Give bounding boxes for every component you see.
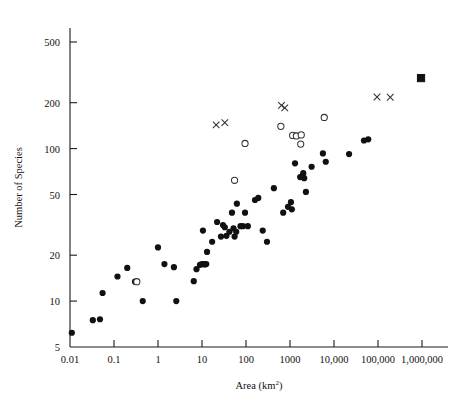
filled-circle-point: [161, 261, 167, 267]
x-axis-title-base: Area (km: [236, 380, 276, 392]
square-point: [417, 74, 424, 81]
x-tick-label-0.01: 0.01: [61, 354, 79, 365]
filled-circle-point: [346, 151, 352, 157]
filled-circle-point: [260, 227, 266, 233]
x-tick-label-0.1: 0.1: [107, 354, 120, 365]
filled-circle-point: [264, 239, 270, 245]
filled-circle-point: [242, 210, 248, 216]
cross-point: [281, 105, 288, 112]
filled-circle-point: [218, 233, 224, 239]
open-circle-point: [298, 132, 304, 138]
open-circle-point: [242, 140, 248, 146]
y-axis-title: Number of Species: [13, 147, 24, 227]
filled-circle-point: [323, 159, 329, 165]
filled-circle-point: [173, 298, 179, 304]
plot-svg: 51020501002005000.010.1110100100010,0001…: [0, 0, 455, 405]
x-tick-label-10,000: 10,000: [320, 354, 349, 365]
open-circle-point: [278, 123, 284, 129]
filled-circle-point: [171, 264, 177, 270]
y-tick-label-20: 20: [50, 250, 61, 261]
filled-circle-point: [271, 185, 277, 191]
y-tick-label-200: 200: [44, 98, 60, 109]
filled-circle-point: [292, 160, 298, 166]
y-tick-label-500: 500: [44, 37, 60, 48]
filled-circle-point: [140, 298, 146, 304]
open-circle-point: [134, 279, 140, 285]
filled-circle-point: [203, 261, 209, 267]
x-tick-label-10: 10: [197, 354, 208, 365]
filled-circle-point: [255, 195, 261, 201]
x-tick-label-1: 1: [155, 354, 160, 365]
cross-point: [213, 122, 220, 129]
open-circle-point: [231, 177, 237, 183]
x-axis-title: Area (km2): [236, 379, 283, 392]
x-axis-title-close: ): [279, 380, 283, 392]
species-area-scatter-chart: 51020501002005000.010.1110100100010,0001…: [0, 0, 455, 405]
filled-circle-point: [114, 273, 120, 279]
filled-circle-point: [90, 317, 96, 323]
filled-circle-point: [222, 224, 228, 230]
filled-circle-point: [214, 219, 220, 225]
filled-circle-point: [365, 136, 371, 142]
filled-circle-point: [309, 164, 315, 170]
filled-circle-point: [124, 265, 130, 271]
filled-circle-point: [234, 201, 240, 207]
filled-circle-point: [288, 199, 294, 205]
cross-point: [387, 94, 394, 101]
axes-group: [70, 28, 448, 347]
y-tick-label-50: 50: [50, 190, 61, 201]
filled-circle-point: [69, 330, 75, 336]
cross-point: [222, 119, 229, 126]
cross-point: [374, 94, 381, 101]
data-points-group: [69, 74, 425, 335]
filled-circle-point: [301, 175, 307, 181]
x-tick-label-100,000: 100,000: [361, 354, 395, 365]
tick-labels-group: 51020501002005000.010.1110100100010,0001…: [44, 37, 443, 365]
filled-circle-point: [280, 210, 286, 216]
filled-circle-point: [200, 227, 206, 233]
y-tick-label-10: 10: [50, 296, 61, 307]
filled-circle-point: [229, 210, 235, 216]
filled-circle-point: [289, 206, 295, 212]
filled-circle-point: [97, 316, 103, 322]
filled-circle-point: [245, 223, 251, 229]
y-tick-label-100: 100: [44, 144, 60, 155]
x-tick-label-1,000,000: 1,000,000: [401, 354, 443, 365]
open-circle-point: [298, 141, 304, 147]
ticks-group: [70, 42, 422, 347]
filled-circle-point: [320, 150, 326, 156]
filled-circle-point: [155, 244, 161, 250]
filled-circle-point: [99, 290, 105, 296]
filled-circle-point: [233, 229, 239, 235]
filled-circle-point: [204, 249, 210, 255]
filled-circle-point: [209, 239, 215, 245]
open-circle-point: [321, 114, 327, 120]
filled-circle-point: [191, 278, 197, 284]
x-tick-label-1000: 1000: [280, 354, 301, 365]
cross-point: [278, 102, 285, 109]
x-tick-label-100: 100: [238, 354, 254, 365]
filled-circle-point: [303, 189, 309, 195]
y-tick-label-5: 5: [55, 342, 60, 353]
